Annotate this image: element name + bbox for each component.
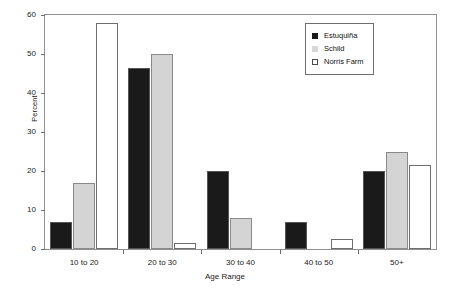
y-tick-label: 20 <box>14 167 36 175</box>
chart-legend: EstuquiñaSchildNorris Farm <box>305 23 374 75</box>
y-tick-label: 0 <box>14 245 36 253</box>
bar-2-1 <box>174 243 196 249</box>
bars-layer <box>45 15 436 249</box>
x-tick-mark <box>201 250 202 254</box>
bar-1-2 <box>230 218 252 249</box>
y-tick-label: 40 <box>14 89 36 97</box>
bar-2-4 <box>409 165 431 249</box>
y-tick-label: 60 <box>14 11 36 19</box>
bar-1-0 <box>73 183 95 249</box>
bar-1-4 <box>386 152 408 250</box>
legend-swatch-icon <box>312 59 318 65</box>
y-axis-title: Percent <box>30 69 39 149</box>
bar-2-3 <box>331 239 353 249</box>
bar-0-2 <box>207 171 229 249</box>
x-tick-mark <box>123 250 124 254</box>
x-tick-label: 50+ <box>357 258 437 267</box>
bar-0-4 <box>363 171 385 249</box>
y-tick-label: 10 <box>14 206 36 214</box>
x-tick-label: 10 to 20 <box>44 258 124 267</box>
legend-label: Schild <box>324 45 344 53</box>
bar-1-1 <box>151 54 173 249</box>
y-tick-label: 50 <box>14 50 36 58</box>
x-tick-label: 20 to 30 <box>122 258 202 267</box>
x-tick-label: 40 to 50 <box>279 258 359 267</box>
y-tick-label: 30 <box>14 128 36 136</box>
legend-item-0: Estuquiña <box>312 30 364 42</box>
legend-item-1: Schild <box>312 43 364 55</box>
bar-0-3 <box>285 222 307 249</box>
legend-swatch-icon <box>312 33 318 39</box>
legend-label: Estuquiña <box>324 32 357 40</box>
y-tick-mark <box>41 249 45 250</box>
bar-chart-figure: Percent 0102030405060 10 to 2020 to 3030… <box>0 0 450 291</box>
legend-item-2: Norris Farm <box>312 56 364 68</box>
bar-0-1 <box>128 68 150 249</box>
x-axis-title: Age Range <box>0 272 450 281</box>
x-tick-label: 30 to 40 <box>201 258 281 267</box>
bar-0-0 <box>50 222 72 249</box>
legend-swatch-icon <box>312 46 318 52</box>
x-tick-mark <box>280 250 281 254</box>
bar-2-0 <box>96 23 118 249</box>
legend-label: Norris Farm <box>324 58 364 66</box>
x-tick-mark <box>358 250 359 254</box>
